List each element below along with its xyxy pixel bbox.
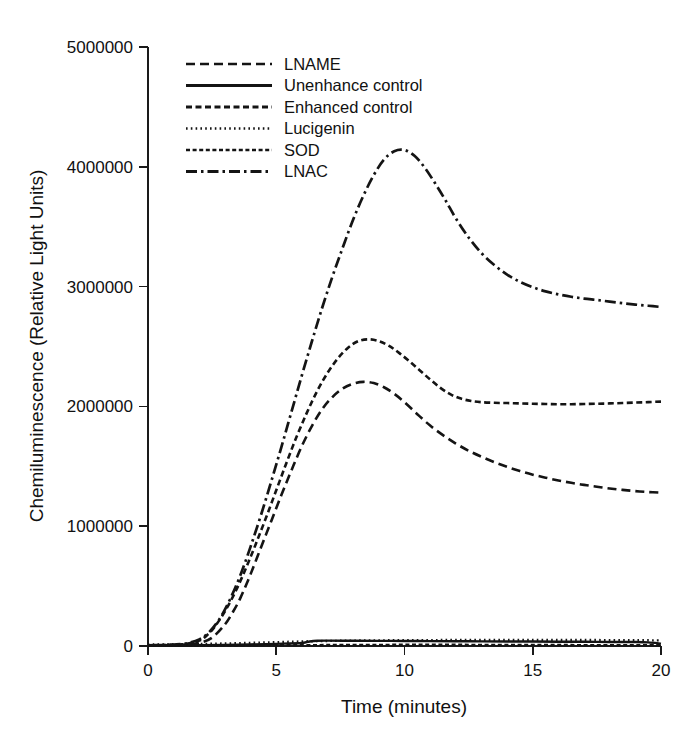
x-tick-label: 0	[143, 661, 152, 680]
y-tick-label: 4000000	[67, 158, 133, 177]
y-tick-label: 0	[124, 637, 133, 656]
y-axis-ticks: 010000002000000300000040000005000000	[67, 38, 148, 656]
y-tick-label: 5000000	[67, 38, 133, 57]
chart-figure: 010000002000000300000040000005000000 051…	[0, 0, 700, 737]
legend-label-sod: SOD	[284, 141, 320, 159]
series-line-enhanced-control	[148, 339, 661, 645]
legend-label-enhanced-control: Enhanced control	[284, 98, 412, 116]
axes	[148, 47, 661, 646]
legend-label-lnac: LNAC	[284, 162, 328, 180]
legend-label-lucigenin: Lucigenin	[284, 119, 355, 137]
x-tick-label: 15	[523, 661, 542, 680]
legend-label-unenhance-control: Unenhance control	[284, 76, 423, 94]
chemiluminescence-line-chart: 010000002000000300000040000005000000 051…	[0, 0, 700, 737]
y-tick-label: 3000000	[67, 278, 133, 297]
data-series-group	[148, 150, 661, 646]
series-line-lname	[148, 382, 661, 646]
x-tick-label: 20	[652, 661, 671, 680]
y-tick-label: 2000000	[67, 397, 133, 416]
x-axis-title: Time (minutes)	[341, 696, 467, 717]
x-tick-label: 10	[395, 661, 414, 680]
chart-legend: LNAMEUnenhance controlEnhanced controlLu…	[186, 55, 423, 181]
x-tick-label: 5	[272, 661, 281, 680]
series-line-lnac	[148, 150, 661, 646]
y-axis-title: Chemiluminescence (Relative Light Units)	[26, 170, 47, 523]
x-axis-ticks: 05101520	[143, 646, 670, 680]
y-tick-label: 1000000	[67, 517, 133, 536]
legend-label-lname: LNAME	[284, 55, 341, 73]
